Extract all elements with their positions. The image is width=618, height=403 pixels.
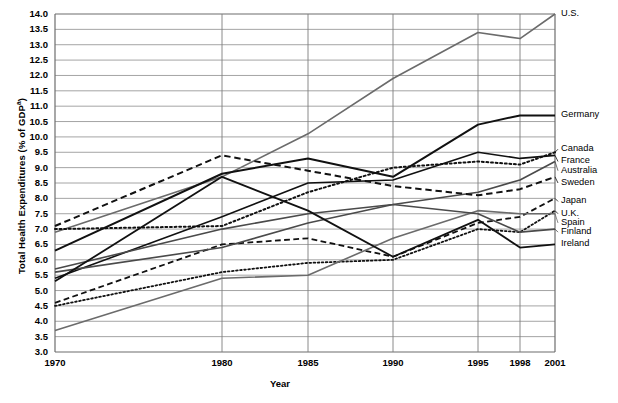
y-axis-tick-label: 8.0 — [16, 192, 48, 203]
x-axis-tick-label: 1985 — [285, 357, 331, 368]
y-axis-tick-label: 12.5 — [16, 54, 48, 65]
series-line — [55, 211, 555, 306]
y-axis-tick-label: 4.0 — [16, 315, 48, 326]
y-axis-tick-label: 3.0 — [16, 346, 48, 357]
y-axis-tick-label: 5.5 — [16, 269, 48, 280]
x-axis-tick-label: 1970 — [32, 357, 78, 368]
y-axis-tick-label: 6.5 — [16, 238, 48, 249]
x-axis-tick-label: 1980 — [199, 357, 245, 368]
y-axis-tick-label: 11.5 — [16, 85, 48, 96]
y-axis-tick-label: 11.0 — [16, 100, 48, 111]
y-axis-tick-label: 9.5 — [16, 146, 48, 157]
y-axis-tick-label: 5.0 — [16, 285, 48, 296]
y-axis-tick-label: 12.0 — [16, 69, 48, 80]
y-axis-tick-label: 13.0 — [16, 39, 48, 50]
x-axis-tick-label: 2001 — [532, 357, 578, 368]
y-axis-tick-label: 7.5 — [16, 208, 48, 219]
x-axis-title: Year — [0, 378, 560, 389]
series-label-ireland: Ireland — [561, 238, 589, 248]
series-line — [55, 14, 555, 232]
series-label-canada: Canada — [561, 143, 594, 153]
health-expenditure-line-chart: Total Health Expenditures (% of GDPa) Ye… — [0, 0, 618, 403]
series-label-finland: Finland — [561, 226, 592, 236]
y-axis-tick-label: 6.0 — [16, 254, 48, 265]
series-label-u-s: U.S. — [561, 8, 579, 18]
series-label-japan: Japan — [561, 195, 586, 205]
y-axis-tick-label: 14.0 — [16, 8, 48, 19]
x-axis-tick-label: 1990 — [370, 357, 416, 368]
series-line — [55, 152, 555, 229]
y-axis-tick-label: 8.5 — [16, 177, 48, 188]
x-axis-tick-label: 1995 — [455, 357, 501, 368]
y-axis-tick-label: 7.0 — [16, 223, 48, 234]
y-axis-tick-label: 13.5 — [16, 23, 48, 34]
series-label-australia: Australia — [561, 165, 597, 175]
chart-canvas — [0, 0, 618, 403]
y-axis-tick-label: 9.0 — [16, 162, 48, 173]
series-label-sweden: Sweden — [561, 177, 595, 187]
y-axis-tick-label: 10.5 — [16, 116, 48, 127]
y-axis-tick-label: 10.0 — [16, 131, 48, 142]
y-axis-tick-label: 3.5 — [16, 331, 48, 342]
y-axis-tick-label: 4.5 — [16, 300, 48, 311]
series-label-germany: Germany — [561, 109, 599, 119]
